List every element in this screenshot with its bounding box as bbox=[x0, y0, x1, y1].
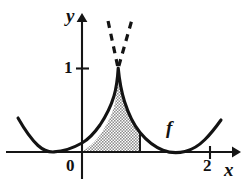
shade-fill-path bbox=[82, 68, 140, 152]
dashed-tangent-left bbox=[107, 16, 118, 66]
y-tick-label-1: 1 bbox=[64, 59, 73, 76]
x-tick-label-2: 2 bbox=[203, 157, 212, 174]
origin-label: 0 bbox=[66, 157, 75, 174]
math-figure: y x f 1 0 2 bbox=[0, 0, 244, 190]
dashed-tangent-right bbox=[119, 16, 133, 66]
y-axis-arrow-icon bbox=[77, 13, 88, 22]
x-axis-label: x bbox=[224, 160, 234, 179]
curve-label-f: f bbox=[166, 118, 172, 137]
x-axis-arrow-icon bbox=[232, 147, 241, 158]
y-axis-label: y bbox=[66, 6, 74, 25]
shaded-region bbox=[82, 68, 140, 152]
